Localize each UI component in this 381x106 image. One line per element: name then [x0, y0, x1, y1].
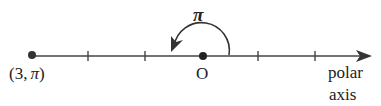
point-label-radius: (3,	[9, 64, 27, 83]
point-label-angle: π	[30, 64, 39, 83]
polar-point-diagram: (3,π) O π polar axis	[0, 0, 381, 106]
point-label-close: )	[39, 64, 45, 83]
angle-label: π	[193, 6, 203, 23]
origin-label: O	[196, 65, 208, 82]
angle-arc	[174, 23, 229, 55]
diagram-graphics	[0, 0, 381, 106]
point-3-pi-dot	[28, 51, 36, 59]
origin-dot	[199, 52, 207, 60]
axis-label-polar: polar	[328, 64, 363, 81]
point-label: (3,π)	[9, 65, 45, 82]
axis-label-axis: axis	[329, 86, 356, 103]
